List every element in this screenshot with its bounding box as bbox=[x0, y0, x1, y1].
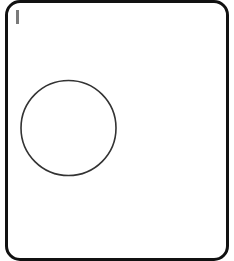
circle-shape[interactable] bbox=[21, 81, 116, 176]
